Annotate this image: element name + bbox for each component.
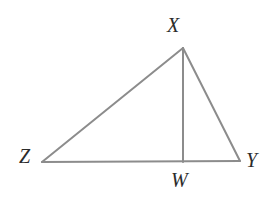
segment-zy xyxy=(42,161,240,162)
segment-xy xyxy=(183,48,240,161)
segment-zx xyxy=(42,48,183,162)
geometry-figure: X Z Y W xyxy=(0,0,277,201)
vertex-label-w: W xyxy=(171,170,188,190)
vertex-label-x: X xyxy=(167,15,179,35)
vertex-label-y: Y xyxy=(246,150,257,170)
triangle-diagram-svg xyxy=(0,0,277,201)
vertex-label-z: Z xyxy=(19,146,30,166)
